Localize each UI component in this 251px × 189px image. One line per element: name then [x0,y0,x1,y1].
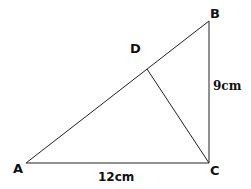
label-c: C [210,163,220,178]
triangle-diagram: A B C D 9cm 12cm [0,0,251,189]
label-b: B [210,6,220,21]
segment-cd [147,69,209,163]
measurement-ac: 12cm [98,170,134,184]
measurement-bc: 9cm [213,79,242,93]
label-a: A [13,161,23,176]
segment-ab [26,21,209,163]
label-d: D [130,41,141,56]
